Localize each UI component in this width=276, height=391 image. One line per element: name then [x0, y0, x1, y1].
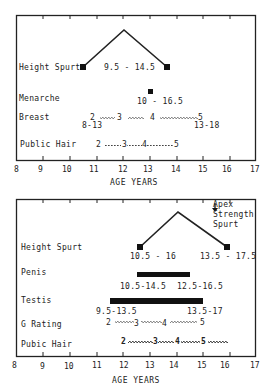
row-label-pubic-hair: Pubic Hair: [21, 340, 72, 349]
testis-end-range: 13.5-17: [187, 307, 223, 316]
hair-b-stage-3: 3: [153, 337, 158, 346]
hair-b-stage-2: 2: [121, 337, 126, 346]
row-label-public-hair: Public Hair: [20, 140, 76, 149]
row-label-g-rating: G Rating: [21, 320, 62, 329]
g-stage-4: 4: [162, 319, 167, 328]
row-label-testis: Testis: [21, 296, 52, 305]
breast-start-range: 8-13: [82, 121, 102, 130]
row-label-height-spurt-bottom: Height Spurt: [21, 243, 82, 252]
tick-8: 8: [14, 165, 19, 174]
hair-stage-5: 5: [174, 140, 179, 149]
tick-13: 13: [143, 165, 153, 174]
tick-17: 17: [250, 165, 260, 174]
g-stage-5: 5: [200, 318, 205, 327]
g-stage-2: 2: [106, 318, 111, 327]
row-label-menarche: Menarche: [19, 94, 60, 103]
hair-stage-4: 4: [142, 140, 147, 149]
row-label-height-spurt: Height Spurt: [19, 63, 80, 72]
tick-11: 11: [89, 165, 99, 174]
bottom-x-axis-title: AGE YEARS: [112, 376, 160, 385]
top-breast-stages: [100, 116, 198, 119]
tick-11: 11: [92, 361, 102, 370]
tick-10: 10: [64, 362, 74, 371]
apex-annotation-line1: Apex: [213, 200, 233, 209]
penis-start-range: 10.5-14.5: [120, 282, 166, 291]
penis-end-range: 12.5-16.5: [177, 282, 223, 291]
tick-12: 12: [118, 165, 128, 174]
top-x-axis-title: AGE YEARS: [110, 178, 158, 187]
tick-12: 12: [119, 361, 129, 370]
tick-16: 16: [222, 165, 232, 174]
g-rating-stages: [115, 320, 197, 323]
tick-17: 17: [250, 361, 260, 370]
height-spurt-range: 9.5 - 14.5: [104, 63, 155, 72]
tick-9: 9: [40, 362, 45, 371]
breast-stage-3: 3: [117, 113, 122, 122]
tick-15: 15: [198, 165, 208, 174]
testis-bar: [110, 298, 203, 304]
row-label-penis: Penis: [21, 268, 47, 277]
penis-bar: [137, 272, 190, 277]
tick-14: 14: [169, 361, 179, 370]
hair-stage-3: 3: [122, 140, 127, 149]
tick-14: 14: [171, 165, 181, 174]
g-stage-3: 3: [134, 319, 139, 328]
apex-annotation-line3: Spurt: [213, 220, 239, 229]
hair-b-stage-5: 5: [201, 337, 206, 346]
apex-annotation-line2: Strength: [213, 210, 254, 219]
tick-10: 10: [62, 165, 72, 174]
breast-stage-4: 4: [150, 113, 155, 122]
tick-16: 16: [220, 361, 230, 370]
top-hair-stages: [104, 143, 174, 146]
height-spurt-start-range: 10.5 - 16: [130, 252, 176, 261]
hair-b-stage-4: 4: [175, 337, 180, 346]
menarche-marker: [148, 89, 153, 94]
tick-15: 15: [197, 361, 207, 370]
tick-8: 8: [12, 361, 17, 370]
top-chart-frame: [17, 16, 256, 161]
hair-stage-2: 2: [96, 140, 101, 149]
tick-9: 9: [38, 165, 43, 174]
height-spurt-end-range: 13.5 - 17.5: [200, 252, 256, 261]
breast-end-range: 13-18: [194, 121, 220, 130]
chart-graphics: [0, 0, 276, 391]
row-label-breast: Breast: [19, 113, 50, 122]
testis-start-range: 9.5-13.5: [96, 307, 137, 316]
menarche-range: 10 - 16.5: [137, 97, 183, 106]
tick-13: 13: [145, 361, 155, 370]
